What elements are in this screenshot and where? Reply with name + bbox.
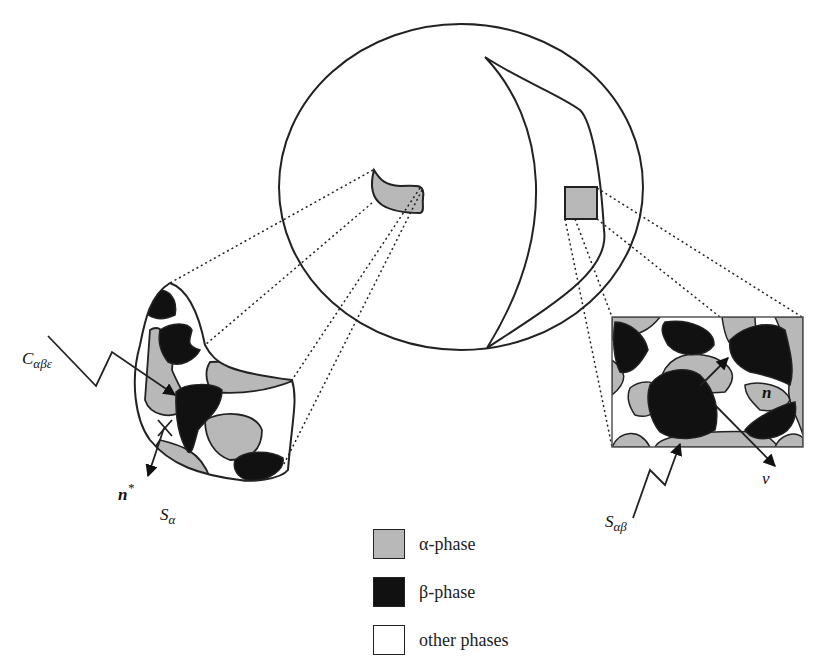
interface-pointer — [633, 444, 680, 518]
alpha-phase-swatch — [373, 529, 405, 559]
normal-n-label: n — [762, 383, 771, 402]
interface-zoom-box — [612, 317, 803, 518]
legend-item-alpha: α-phase — [373, 520, 508, 568]
normal-nu-label: ν — [762, 469, 770, 488]
beta-phase-swatch — [373, 577, 405, 607]
alpha-inclusion-macro — [372, 170, 423, 213]
triple-line-label: Cαβε — [22, 349, 53, 371]
macro-body — [279, 24, 643, 350]
sample-square-macro — [565, 187, 597, 219]
legend: α-phase β-phase other phases — [373, 520, 508, 664]
legend-label: β-phase — [419, 582, 475, 603]
legend-label: other phases — [419, 630, 508, 651]
normal-star-label: n* — [118, 480, 134, 504]
legend-item-other: other phases — [373, 616, 508, 664]
legend-item-beta: β-phase — [373, 568, 508, 616]
surface-zoom-blob — [48, 283, 295, 481]
other-phases-swatch — [373, 625, 405, 655]
interface-ab-label: Sαβ — [605, 512, 627, 534]
legend-label: α-phase — [419, 534, 475, 555]
surface-alpha-label: Sα — [160, 505, 177, 527]
